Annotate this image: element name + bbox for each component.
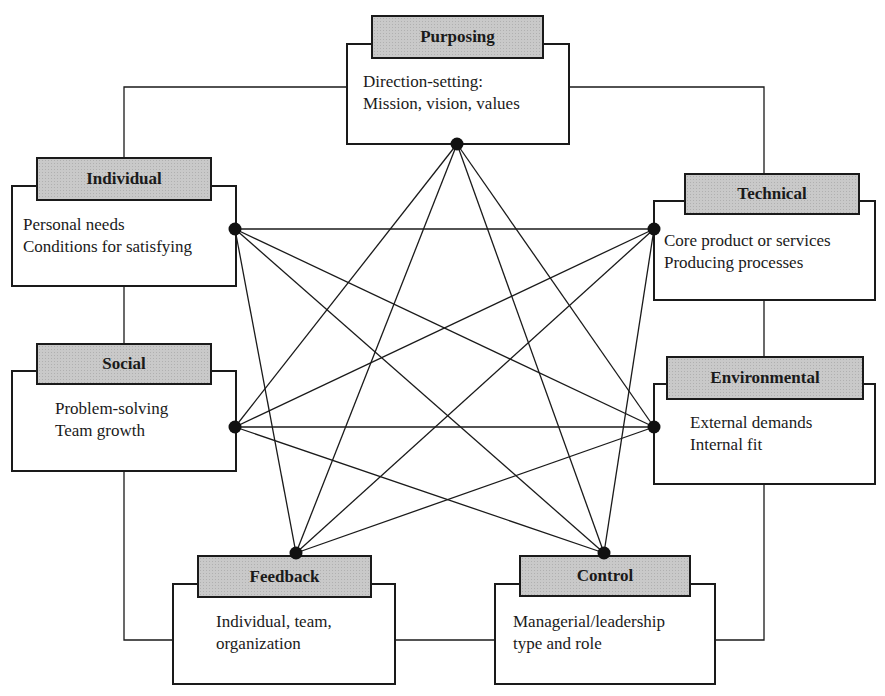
- line-control-2: type and role: [513, 633, 665, 655]
- title-feedback: Feedback: [250, 567, 320, 587]
- line-technical-2: Producing processes: [664, 252, 831, 274]
- title-technical: Technical: [737, 184, 806, 204]
- systems-diagram: Purposing Direction-setting: Mission, vi…: [0, 0, 885, 696]
- title-control: Control: [577, 566, 633, 586]
- tab-purposing: Purposing: [371, 15, 544, 59]
- line-feedback-2: organization: [216, 633, 332, 655]
- line-social-1: Problem-solving: [55, 398, 168, 420]
- text-technical: Core product or services Producing proce…: [664, 230, 831, 274]
- tab-feedback: Feedback: [197, 555, 372, 598]
- tab-technical: Technical: [684, 173, 860, 215]
- connector-purposing-technical: [569, 87, 764, 173]
- connector-environmental-control: [715, 484, 764, 640]
- line-technical-1: Core product or services: [664, 230, 831, 252]
- line-feedback-1: Individual, team,: [216, 611, 332, 633]
- title-individual: Individual: [86, 169, 162, 189]
- connector-social-feedback: [124, 471, 172, 640]
- line-purposing-1: Direction-setting:: [363, 71, 520, 93]
- tab-environmental: Environmental: [666, 356, 864, 400]
- tab-control: Control: [519, 555, 691, 597]
- text-environmental: External demands Internal fit: [690, 412, 812, 456]
- title-social: Social: [102, 354, 145, 374]
- tab-individual: Individual: [36, 157, 212, 201]
- line-control-1: Managerial/leadership: [513, 611, 665, 633]
- text-control: Managerial/leadership type and role: [513, 611, 665, 655]
- line-individual-2: Conditions for satisfying: [23, 236, 192, 258]
- line-environmental-2: Internal fit: [690, 434, 812, 456]
- title-purposing: Purposing: [420, 27, 495, 47]
- line-environmental-1: External demands: [690, 412, 812, 434]
- line-social-2: Team growth: [55, 420, 168, 442]
- title-environmental: Environmental: [710, 368, 819, 388]
- text-social: Problem-solving Team growth: [55, 398, 168, 442]
- line-purposing-2: Mission, vision, values: [363, 93, 520, 115]
- line-individual-1: Personal needs: [23, 214, 192, 236]
- text-purposing: Direction-setting: Mission, vision, valu…: [363, 71, 520, 115]
- connector-purposing-individual: [124, 87, 346, 157]
- tab-social: Social: [36, 343, 212, 385]
- text-individual: Personal needs Conditions for satisfying: [23, 214, 192, 258]
- text-feedback: Individual, team, organization: [216, 611, 332, 655]
